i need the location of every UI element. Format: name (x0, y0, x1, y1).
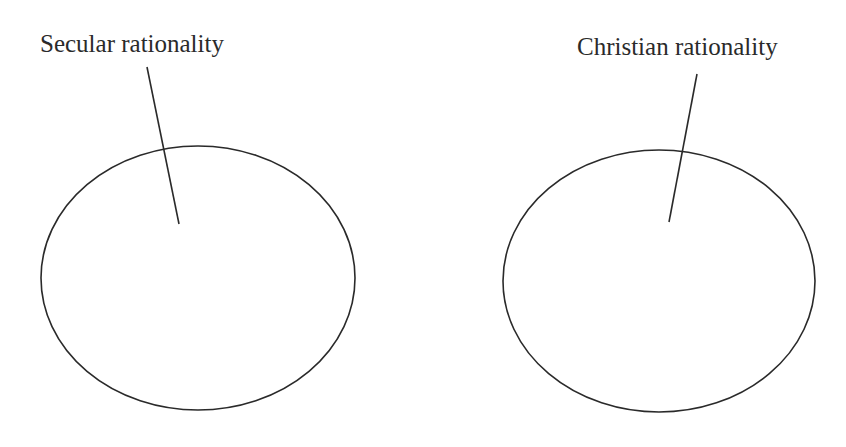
christian-rationality-leader-line (669, 74, 697, 222)
secular-rationality-leader-line (147, 67, 179, 224)
diagram-canvas: Secular rationality Christian rationalit… (0, 0, 846, 447)
christian-rationality-label: Christian rationality (577, 33, 778, 60)
secular-rationality-ellipse (41, 146, 355, 410)
christian-rationality-ellipse (503, 150, 815, 412)
secular-rationality-label: Secular rationality (40, 30, 224, 57)
christian-rationality-group: Christian rationality (503, 33, 815, 412)
secular-rationality-group: Secular rationality (40, 30, 355, 410)
